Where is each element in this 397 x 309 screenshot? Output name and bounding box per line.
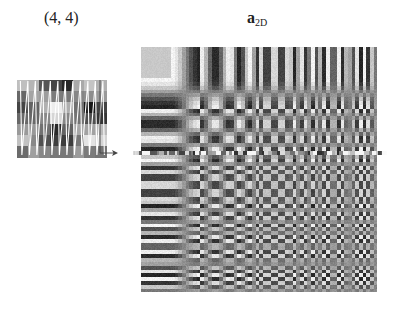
dct-basis-grid: [141, 47, 377, 292]
scanned-row-strip: [133, 151, 387, 155]
basis-symbol: a: [247, 9, 255, 26]
basis-symbol-label: a2D: [247, 10, 267, 28]
basis-subscript: 2D: [255, 17, 267, 28]
image-patch: [17, 80, 107, 158]
patch-position-label: (4, 4): [44, 10, 79, 26]
